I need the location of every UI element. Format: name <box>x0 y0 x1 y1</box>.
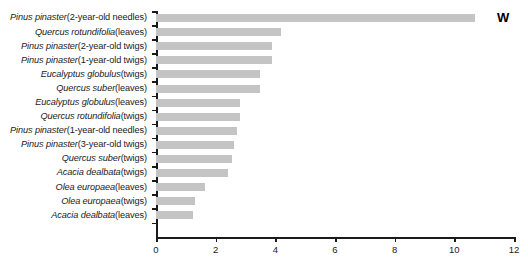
bar <box>156 14 475 22</box>
species-name: Quercus rotundifolia <box>35 28 115 37</box>
bar <box>156 113 240 121</box>
y-axis-tick <box>152 11 157 13</box>
bar <box>156 169 228 177</box>
tissue-detail: (twigs) <box>121 197 147 206</box>
y-axis-tick <box>152 25 157 27</box>
x-axis-tick <box>395 237 397 242</box>
species-name: Eucalyptus globulus <box>41 70 121 79</box>
species-name: Acacia dealbata <box>57 168 121 177</box>
bar-row <box>156 180 514 194</box>
y-axis-label: Acacia dealbata (leaves) <box>0 208 152 222</box>
species-name: Pinus pinaster <box>21 42 78 51</box>
bar <box>156 56 272 64</box>
y-axis-tick <box>152 67 157 69</box>
tissue-detail: (twigs) <box>121 154 147 163</box>
y-axis-label: Quercus suber (leaves) <box>0 81 152 95</box>
bar-chart: Pinus pinaster (2-year-old needles)Querc… <box>0 0 528 261</box>
tissue-detail: (leaves) <box>115 28 147 37</box>
y-axis-label: Acacia dealbata (twigs) <box>0 166 152 180</box>
species-name: Pinus pinaster <box>10 13 67 22</box>
bar <box>156 28 281 36</box>
tissue-detail: (leaves) <box>115 183 147 192</box>
x-axis-tick <box>216 237 218 242</box>
panel-label: W <box>497 10 509 25</box>
x-axis-tick-label: 0 <box>153 244 158 255</box>
tissue-detail: (3-year-old twigs) <box>78 140 147 149</box>
bar-row <box>156 194 514 208</box>
bar <box>156 42 272 50</box>
species-name: Pinus pinaster <box>21 56 78 65</box>
species-name: Eucalyptus globulus <box>35 98 115 107</box>
tissue-detail: (1-year-old twigs) <box>78 56 147 65</box>
y-axis-label: Pinus pinaster (3-year-old twigs) <box>0 138 152 152</box>
bar-row <box>156 110 514 124</box>
bar <box>156 197 195 205</box>
tissue-detail: (1-year-old needles) <box>67 126 147 135</box>
y-axis-label: Quercus rotundifolia (leaves) <box>0 25 152 39</box>
species-name: Acacia dealbata <box>51 211 115 220</box>
bar-row <box>156 166 514 180</box>
plot-area: 024681012 <box>156 11 514 237</box>
y-axis-tick <box>152 39 157 41</box>
species-name: Olea europaea <box>61 197 121 206</box>
bar <box>156 211 193 219</box>
y-axis-tick <box>152 53 157 55</box>
y-axis-tick <box>152 81 157 83</box>
bar <box>156 99 240 107</box>
y-axis-label: Quercus suber (twigs) <box>0 152 152 166</box>
x-axis-tick-label: 4 <box>273 244 278 255</box>
y-axis-tick <box>152 194 157 196</box>
bar-row <box>156 25 514 39</box>
y-axis-tick <box>152 96 157 98</box>
species-name: Quercus suber <box>56 84 115 93</box>
species-name: Quercus suber <box>62 154 121 163</box>
bar-row <box>156 67 514 81</box>
species-name: Pinus pinaster <box>21 140 78 149</box>
x-axis-tick-label: 2 <box>213 244 218 255</box>
tissue-detail: (twigs) <box>121 70 147 79</box>
tissue-detail: (leaves) <box>115 84 147 93</box>
y-axis-tick <box>152 138 157 140</box>
bar-row <box>156 124 514 138</box>
y-axis-label: Pinus pinaster (1-year-old needles) <box>0 124 152 138</box>
bar-row <box>156 138 514 152</box>
bar <box>156 183 205 191</box>
y-axis-tick <box>152 223 157 225</box>
x-axis-tick <box>335 237 337 242</box>
y-axis-tick <box>152 166 157 168</box>
y-axis-tick <box>152 110 157 112</box>
y-axis-tick <box>152 152 157 154</box>
y-axis-tick <box>152 180 157 182</box>
x-axis-tick-label: 8 <box>392 244 397 255</box>
bar-row <box>156 53 514 67</box>
x-axis-tick <box>514 237 516 242</box>
x-axis-tick <box>454 237 456 242</box>
tissue-detail: (2-year-old needles) <box>67 13 147 22</box>
y-axis-label: Pinus pinaster (1-year-old twigs) <box>0 53 152 67</box>
y-axis-label: Eucalyptus globulus (twigs) <box>0 67 152 81</box>
bar-rows <box>156 11 514 237</box>
x-axis-tick <box>156 237 158 242</box>
y-axis-label: Olea europaea (twigs) <box>0 194 152 208</box>
tissue-detail: (twigs) <box>121 168 147 177</box>
species-name: Pinus pinaster <box>10 126 67 135</box>
bar <box>156 127 237 135</box>
bar-row <box>156 81 514 95</box>
bar-row <box>156 11 514 25</box>
bar <box>156 155 232 163</box>
y-axis-tick <box>152 124 157 126</box>
x-axis-tick-label: 10 <box>449 244 460 255</box>
tissue-detail: (twigs) <box>121 112 147 121</box>
x-axis-tick-label: 6 <box>332 244 337 255</box>
y-axis-labels: Pinus pinaster (2-year-old needles)Querc… <box>0 11 152 237</box>
bar <box>156 141 234 149</box>
y-axis-label: Olea europaea (leaves) <box>0 180 152 194</box>
x-axis-tick-label: 12 <box>509 244 520 255</box>
bar <box>156 70 260 78</box>
y-axis-tick <box>152 208 157 210</box>
species-name: Olea europaea <box>56 183 116 192</box>
bar-row <box>156 39 514 53</box>
tissue-detail: (2-year-old twigs) <box>78 42 147 51</box>
y-axis-label: Pinus pinaster (2-year-old twigs) <box>0 39 152 53</box>
bar <box>156 85 260 93</box>
